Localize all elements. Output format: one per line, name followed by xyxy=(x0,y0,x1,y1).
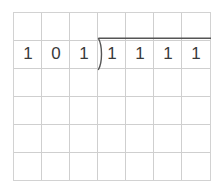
dividend-digit: 1 xyxy=(98,40,126,68)
divisor-digit: 0 xyxy=(42,40,70,68)
divisor-digit: 1 xyxy=(70,40,98,68)
grid-paper xyxy=(13,12,211,181)
grid-line-horizontal xyxy=(14,96,210,97)
dividend-digit: 1 xyxy=(154,40,182,68)
grid-line-horizontal xyxy=(14,124,210,125)
worksheet-canvas: 1 0 1 1 1 1 1 xyxy=(0,0,221,194)
divisor-digit: 1 xyxy=(14,40,42,68)
grid-line-horizontal xyxy=(14,68,210,69)
grid-line-horizontal xyxy=(14,152,210,153)
dividend-digit: 1 xyxy=(126,40,154,68)
dividend-digit: 1 xyxy=(182,40,210,68)
